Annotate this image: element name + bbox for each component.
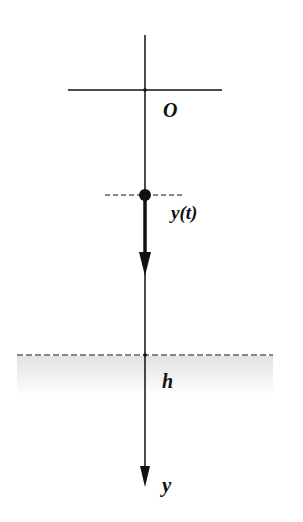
height-label: h xyxy=(162,371,173,391)
origin-point xyxy=(143,88,147,92)
y-axis-label: y xyxy=(162,475,171,496)
velocity-arrowhead-icon xyxy=(139,252,151,276)
ground-point xyxy=(143,353,147,357)
origin-label: O xyxy=(163,100,177,120)
position-label: y(t) xyxy=(171,203,197,222)
y-axis-arrowhead-icon xyxy=(140,466,150,487)
falling-body-diagram xyxy=(0,0,303,522)
